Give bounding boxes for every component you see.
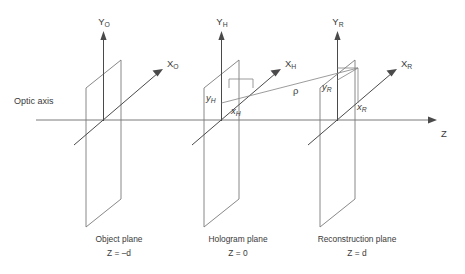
hologram-y-axis-label: YH	[216, 16, 227, 28]
object-x-axis-arrowhead	[153, 69, 164, 77]
reconstruction-plane-group	[308, 31, 397, 227]
object-x-axis-label: XO	[167, 58, 179, 70]
reconstruction-point-y-label: yR	[321, 81, 332, 93]
optic-axis-label: Optic axis	[14, 96, 54, 106]
hologram-plane-group	[192, 31, 281, 227]
object-plane-caption-name: Object plane	[95, 234, 142, 244]
hologram-point-y-label: yH	[205, 92, 216, 104]
object-y-axis-label: YO	[98, 16, 110, 28]
reconstruction-x-axis-line	[308, 73, 392, 145]
optic-axis-group	[36, 117, 437, 124]
reconstruction-plane-caption-name: Reconstruction plane	[318, 234, 397, 244]
hologram-plane-caption-name: Hologram plane	[208, 234, 267, 244]
reconstruction-plane-caption-coord: Z = d	[347, 248, 367, 258]
hologram-x-axis-arrowhead	[271, 69, 282, 77]
reconstruction-y-axis-label: YR	[332, 16, 343, 28]
reconstruction-point-x-label: xR	[356, 101, 367, 113]
reconstruction-y-axis-arrowhead	[334, 31, 340, 40]
hologram-y-axis-arrowhead	[218, 31, 224, 40]
object-plane-caption-coord: Z = –d	[107, 248, 131, 258]
reconstruction-x-axis-label: XR	[401, 58, 412, 70]
optical-geometry-diagram: Optic axis Z YO XO YH XH YR XR yH xH yR …	[0, 0, 465, 274]
hologram-point-rectangle	[229, 79, 253, 88]
hologram-x-axis-label: XH	[285, 58, 296, 70]
hologram-plane-caption-coord: Z = 0	[228, 248, 248, 258]
object-x-axis-line	[74, 73, 158, 145]
object-plane-group	[74, 31, 163, 227]
figure-root: Optic axis Z YO XO YH XH YR XR yH xH yR …	[0, 0, 465, 274]
object-y-axis-arrowhead	[100, 31, 106, 40]
z-axis-arrowhead	[428, 117, 437, 124]
rho-label: ρ	[293, 85, 299, 96]
reconstruction-x-axis-arrowhead	[387, 69, 398, 77]
z-axis-label: Z	[441, 128, 447, 139]
